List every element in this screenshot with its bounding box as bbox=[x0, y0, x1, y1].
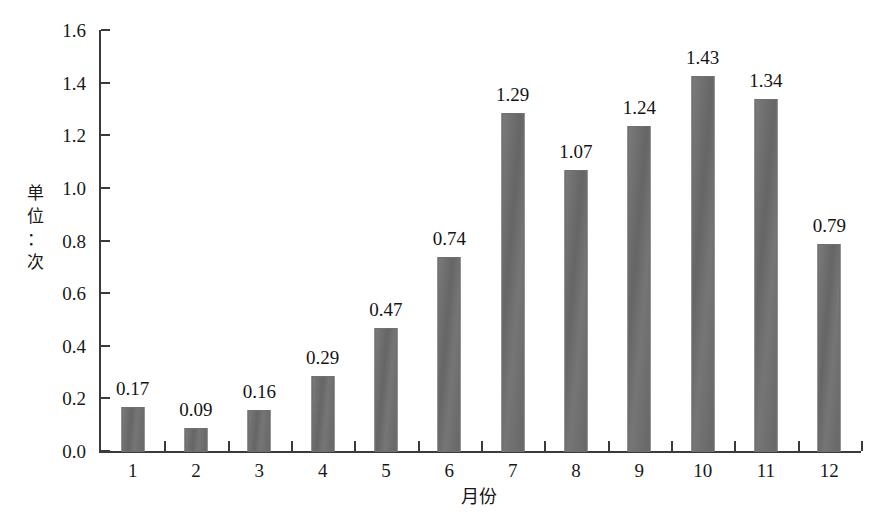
bar[interactable] bbox=[438, 257, 461, 452]
bar-value-label: 0.09 bbox=[179, 400, 212, 419]
bar-chart: 单 位 ： 次 0.00.20.40.60.81.01.21.41.6 0.17… bbox=[0, 0, 883, 514]
x-axis-tick-label: 5 bbox=[354, 461, 417, 481]
bar-slot: 0.17 bbox=[101, 30, 164, 452]
bar-slot: 0.79 bbox=[798, 30, 861, 452]
x-axis-tick-mark bbox=[481, 441, 483, 451]
bar-value-label: 0.29 bbox=[306, 348, 339, 367]
bar-slot: 1.29 bbox=[481, 30, 544, 452]
bar-value-label: 0.16 bbox=[243, 382, 276, 401]
bar[interactable] bbox=[818, 244, 841, 452]
bar-value-label: 1.43 bbox=[686, 48, 719, 67]
y-axis-tick-label: 0.8 bbox=[34, 232, 86, 251]
x-axis-tick-label: 9 bbox=[608, 461, 671, 481]
x-axis-tick-mark bbox=[671, 441, 673, 451]
y-axis-tick-label: 0.6 bbox=[34, 284, 86, 303]
x-axis-tick-label: 6 bbox=[418, 461, 481, 481]
bar-value-label: 1.34 bbox=[749, 71, 782, 90]
y-axis-tick-label: 0.2 bbox=[34, 389, 86, 408]
plot-area: 0.170.090.160.290.470.741.291.071.241.43… bbox=[101, 30, 861, 452]
y-axis-tick-label: 1.0 bbox=[34, 179, 86, 198]
x-axis-tick-label: 2 bbox=[164, 461, 227, 481]
bar[interactable] bbox=[311, 376, 334, 452]
bar-slot: 0.29 bbox=[291, 30, 354, 452]
x-axis-tick-label: 11 bbox=[734, 461, 797, 481]
y-axis-tick-label: 1.4 bbox=[34, 74, 86, 93]
bar-slot: 0.47 bbox=[354, 30, 417, 452]
x-axis-tick-label: 1 bbox=[101, 461, 164, 481]
bar-value-label: 0.79 bbox=[813, 216, 846, 235]
bar[interactable] bbox=[564, 170, 587, 452]
bar-value-label: 1.29 bbox=[496, 85, 529, 104]
bar-slot: 1.07 bbox=[544, 30, 607, 452]
bar-slot: 1.43 bbox=[671, 30, 734, 452]
y-axis-tick-labels: 0.00.20.40.60.81.01.21.41.6 bbox=[34, 0, 86, 514]
x-axis-tick-mark bbox=[861, 441, 863, 451]
bar[interactable] bbox=[754, 99, 777, 452]
y-axis-tick-label: 0.4 bbox=[34, 337, 86, 356]
bar[interactable] bbox=[374, 328, 397, 452]
bar[interactable] bbox=[628, 126, 651, 452]
x-axis-tick-mark bbox=[354, 441, 356, 451]
bar-value-label: 1.07 bbox=[559, 142, 592, 161]
x-axis-tick-mark bbox=[608, 441, 610, 451]
bar-slot: 0.09 bbox=[164, 30, 227, 452]
x-axis-tick-mark bbox=[734, 441, 736, 451]
bar-value-label: 1.24 bbox=[623, 98, 656, 117]
x-axis-tick-label: 7 bbox=[481, 461, 544, 481]
bar[interactable] bbox=[691, 76, 714, 452]
y-axis-tick-label: 0.0 bbox=[34, 442, 86, 461]
x-axis-tick-label: 8 bbox=[544, 461, 607, 481]
x-axis-tick-mark bbox=[228, 441, 230, 451]
x-axis-tick-mark bbox=[418, 441, 420, 451]
x-axis-tick-mark bbox=[291, 441, 293, 451]
x-axis-tick-mark bbox=[544, 441, 546, 451]
bar[interactable] bbox=[121, 407, 144, 452]
bar[interactable] bbox=[184, 428, 207, 452]
x-axis-tick-label: 4 bbox=[291, 461, 354, 481]
x-axis-tick-mark bbox=[164, 441, 166, 451]
bar-slot: 0.74 bbox=[418, 30, 481, 452]
x-axis-title: 月份 bbox=[0, 487, 883, 507]
x-axis-tick-label: 10 bbox=[671, 461, 734, 481]
bar-slot: 1.34 bbox=[734, 30, 797, 452]
x-axis-tick-label: 12 bbox=[798, 461, 861, 481]
y-axis-tick-label: 1.6 bbox=[34, 21, 86, 40]
x-axis-title-text: 月份 bbox=[461, 487, 497, 507]
x-axis-tick-mark bbox=[798, 441, 800, 451]
bar-slot: 1.24 bbox=[608, 30, 671, 452]
bar-value-label: 0.17 bbox=[116, 379, 149, 398]
bar[interactable] bbox=[248, 410, 271, 452]
bar[interactable] bbox=[501, 113, 524, 452]
y-axis-tick-label: 1.2 bbox=[34, 126, 86, 145]
x-axis-tick-label: 3 bbox=[228, 461, 291, 481]
bar-slot: 0.16 bbox=[228, 30, 291, 452]
bar-value-label: 0.74 bbox=[433, 229, 466, 248]
bar-value-label: 0.47 bbox=[369, 300, 402, 319]
